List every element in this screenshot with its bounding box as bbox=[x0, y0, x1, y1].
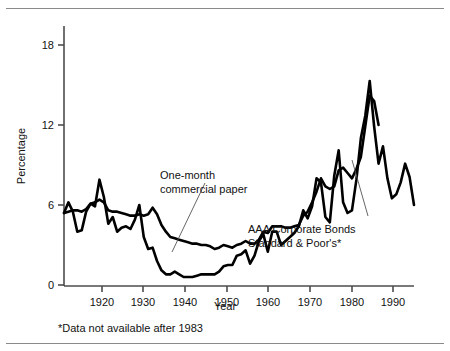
figure-container: 0 6 12 18 1920 1930 1940 1950 1960 1970 … bbox=[0, 0, 450, 351]
annotation-commercial-paper-line2: commercial paper bbox=[160, 182, 247, 196]
y-tick-label-0: 0 bbox=[28, 279, 54, 291]
x-axis-title: Year bbox=[0, 300, 450, 312]
y-tick-label-18: 18 bbox=[28, 39, 54, 51]
annotation-aaa-line2: Standard & Poor's* bbox=[248, 236, 356, 250]
annotation-commercial-paper: One-month commercial paper bbox=[160, 168, 247, 196]
annotation-commercial-paper-line1: One-month bbox=[160, 168, 247, 182]
y-tick-label-6: 6 bbox=[28, 199, 54, 211]
y-tick-label-12: 12 bbox=[28, 119, 54, 131]
annotation-aaa-line1: AAA Corporate Bonds bbox=[248, 222, 356, 236]
annotation-aaa-corporate-bonds: AAA Corporate Bonds Standard & Poor's* bbox=[248, 222, 356, 250]
footnote-text: *Data not available after 1983 bbox=[58, 322, 203, 334]
y-tick-marks bbox=[58, 45, 64, 285]
x-tick-marks bbox=[102, 286, 393, 292]
y-axis-title: Percentage bbox=[15, 111, 27, 201]
